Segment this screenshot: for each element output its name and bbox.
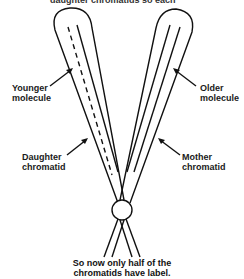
daughter-chromatid-outline	[54, 8, 124, 203]
older-molecule-label: Older molecule	[200, 83, 239, 103]
daughter-chromatid-label: Daughter chromatid	[22, 152, 66, 172]
mother-chromatid-label: Mother chromatid	[182, 152, 226, 172]
caption: So now only half of the chromatids have …	[0, 258, 244, 278]
older-pointer	[175, 70, 196, 86]
daughter-inner-strand	[77, 25, 118, 172]
younger-pointer	[50, 70, 71, 86]
mother-chromatid-outline	[120, 9, 193, 203]
daughter-pointer	[67, 140, 86, 155]
chromosome-diagram	[0, 0, 244, 279]
mother-pointer	[160, 140, 180, 155]
younger-molecule-label: Younger molecule	[12, 83, 51, 103]
centromere	[112, 200, 132, 220]
